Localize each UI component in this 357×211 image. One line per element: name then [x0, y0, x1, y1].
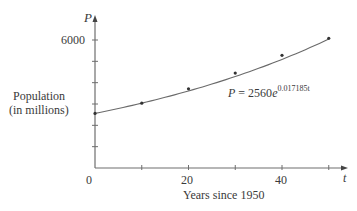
y-tick-label-6000: 6000	[61, 34, 85, 46]
model-curve	[95, 39, 329, 113]
x-tick-label-40: 40	[275, 174, 287, 186]
eq-mid: = 2560	[235, 86, 272, 100]
eq-exponent: 0.017185t	[277, 84, 309, 93]
data-point	[327, 37, 330, 40]
data-point	[234, 71, 237, 74]
y-axis-variable-label: P	[84, 11, 92, 24]
x-axis-arrow-icon	[341, 166, 348, 171]
x-tick-label-20: 20	[181, 174, 193, 186]
model-equation: P = 2560e0.017185t	[228, 85, 310, 99]
x-axis-variable-label: t	[343, 172, 346, 184]
data-point	[187, 87, 190, 90]
data-point	[140, 102, 143, 105]
ylabel-line1: Population	[13, 90, 65, 102]
data-point	[93, 112, 96, 115]
ylabel-line2: (in millions)	[9, 104, 69, 116]
x-tick-label-0: 0	[86, 174, 92, 186]
y-axis-arrow-icon	[93, 15, 98, 22]
data-point	[280, 54, 283, 57]
x-axis-title: Years since 1950	[183, 189, 264, 201]
